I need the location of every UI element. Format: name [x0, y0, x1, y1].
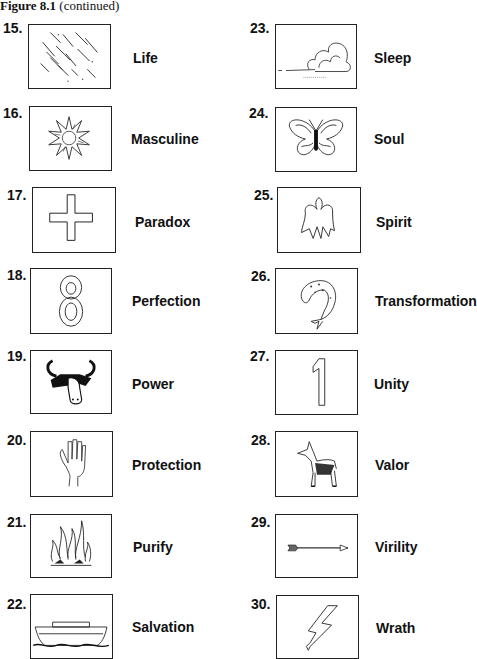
symbol-box [28, 24, 111, 89]
lightning-icon [277, 596, 358, 658]
symbol-box [30, 350, 112, 414]
symbol-label: Unity [374, 376, 409, 392]
figure-note: (continued) [59, 0, 119, 13]
item-number: 26. [251, 268, 270, 284]
symbol-label: Protection [132, 457, 201, 473]
symbol-box [275, 514, 358, 578]
symbol-label: Wrath [376, 620, 415, 636]
symbol-box [29, 106, 112, 171]
symbol-label: Masculine [131, 131, 199, 147]
symbol-box [275, 350, 358, 415]
symbol-box [276, 595, 359, 659]
symbol-label: Spirit [376, 214, 412, 230]
cross-icon [33, 188, 115, 252]
symbol-box [30, 431, 113, 497]
symbol-label: Soul [374, 131, 404, 147]
item-number: 16. [3, 105, 22, 121]
symbol-label: Salvation [132, 619, 194, 635]
symbol-box [275, 431, 358, 497]
symbol-label: Purify [133, 539, 173, 555]
symbol-label: Sleep [374, 50, 411, 66]
symbol-label: Virility [375, 539, 418, 555]
symbol-box [32, 187, 116, 253]
item-number: 22. [7, 596, 26, 612]
item-number: 28. [251, 432, 270, 448]
fire-icon [31, 515, 111, 577]
hand-icon [31, 432, 112, 496]
item-number: 30. [251, 596, 270, 612]
item-number: 23. [250, 20, 269, 36]
item-number: 24. [249, 105, 268, 121]
item-number: 15. [3, 20, 22, 36]
figure-number: Figure 8.1 [0, 0, 56, 13]
bull-icon [31, 351, 111, 413]
butterfly-icon [276, 108, 356, 171]
item-number: 27. [250, 348, 269, 364]
angel-icon [278, 188, 360, 252]
symbol-label: Valor [375, 457, 409, 473]
item-number: 19. [7, 348, 26, 364]
symbol-box [30, 594, 113, 659]
symbol-box [275, 107, 357, 172]
rain-icon [29, 25, 110, 88]
symbol-box [275, 268, 358, 334]
symbol-box [277, 187, 361, 253]
item-number: 17. [7, 187, 26, 203]
symbol-box [275, 24, 357, 89]
figure-caption: Figure 8.1 (continued) [0, 0, 119, 14]
symbol-label: Life [133, 50, 158, 66]
symbol-box [30, 268, 112, 334]
arrow-icon [276, 515, 357, 577]
symbol-box [30, 514, 112, 578]
item-number: 29. [251, 514, 270, 530]
sun-icon [30, 107, 111, 170]
number-one-icon [276, 351, 357, 414]
cloud-icon [276, 25, 356, 88]
item-number: 21. [7, 514, 26, 530]
symbol-label: Perfection [132, 293, 200, 309]
symbol-label: Paradox [135, 214, 190, 230]
dog-icon [276, 432, 357, 496]
ark-icon [31, 595, 112, 658]
symbol-label: Power [132, 376, 174, 392]
item-number: 20. [7, 432, 26, 448]
symbol-label: Transformation [375, 293, 477, 309]
fish-icon [276, 269, 357, 333]
number-eight-icon [31, 269, 111, 333]
item-number: 18. [7, 267, 26, 283]
item-number: 25. [254, 187, 273, 203]
